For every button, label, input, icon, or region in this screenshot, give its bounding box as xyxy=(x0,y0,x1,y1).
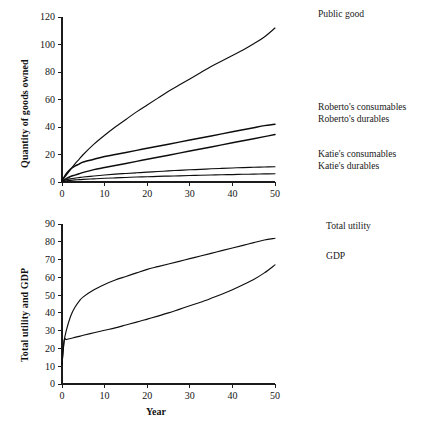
x-tick-label: 10 xyxy=(100,188,110,199)
y-tick-label: 100 xyxy=(40,39,55,50)
x-tick-label: 40 xyxy=(227,390,237,401)
y-tick-label: 60 xyxy=(45,272,55,283)
legend-label-gdp: GDP xyxy=(326,250,345,262)
y-tick-label: 10 xyxy=(45,361,55,372)
chart-panel-bottom: Total utility and GDP 010203040506070809… xyxy=(0,206,428,432)
x-tick-label: 30 xyxy=(185,390,195,401)
y-tick-label: 60 xyxy=(45,94,55,105)
legend-label-total-utility: Total utility xyxy=(326,220,371,232)
y-tick-label: 90 xyxy=(45,218,55,229)
y-tick-label: 0 xyxy=(50,176,55,187)
y-tick-label: 20 xyxy=(45,149,55,160)
legend-label-katies-consumables: Katie's consumables xyxy=(318,148,396,160)
y-tick-label: 40 xyxy=(45,307,55,318)
x-tick-label: 0 xyxy=(60,390,65,401)
x-tick-label: 30 xyxy=(185,188,195,199)
figure-container: Quantity of goods owned 0204060801001200… xyxy=(0,0,428,432)
series-line-gdp xyxy=(62,265,275,365)
y-tick-label: 70 xyxy=(45,254,55,265)
y-tick-label: 50 xyxy=(45,290,55,301)
series-line-total-utility xyxy=(62,238,275,364)
y-tick-label: 80 xyxy=(45,66,55,77)
legend-label-robertos-consumables: Roberto's consumables xyxy=(318,101,406,113)
legend-label-robertos-durables: Roberto's durables xyxy=(318,113,389,125)
plot-area-bottom: 010203040506070809001020304050 xyxy=(0,206,428,432)
legend-label-public-good: Public good xyxy=(318,8,364,20)
legend-label-katies-durables: Katie's durables xyxy=(318,160,379,172)
x-tick-label: 10 xyxy=(100,390,110,401)
x-tick-label: 50 xyxy=(270,390,280,401)
series-line-roberto-s-consumables xyxy=(62,124,275,180)
x-tick-label: 20 xyxy=(142,188,152,199)
y-tick-label: 40 xyxy=(45,121,55,132)
x-tick-label: 20 xyxy=(142,390,152,401)
chart-panel-top: Quantity of goods owned 0204060801001200… xyxy=(0,0,428,200)
x-tick-label: 0 xyxy=(60,188,65,199)
series-line-public-good xyxy=(62,28,275,181)
x-axis-label-bottom: Year xyxy=(146,406,166,417)
y-tick-label: 30 xyxy=(45,325,55,336)
y-tick-label: 80 xyxy=(45,236,55,247)
series-line-katie-s-durables xyxy=(62,174,275,182)
x-tick-label: 40 xyxy=(227,188,237,199)
y-tick-label: 120 xyxy=(40,11,55,22)
x-tick-label: 50 xyxy=(270,188,280,199)
y-tick-label: 20 xyxy=(45,343,55,354)
y-tick-label: 0 xyxy=(50,378,55,389)
